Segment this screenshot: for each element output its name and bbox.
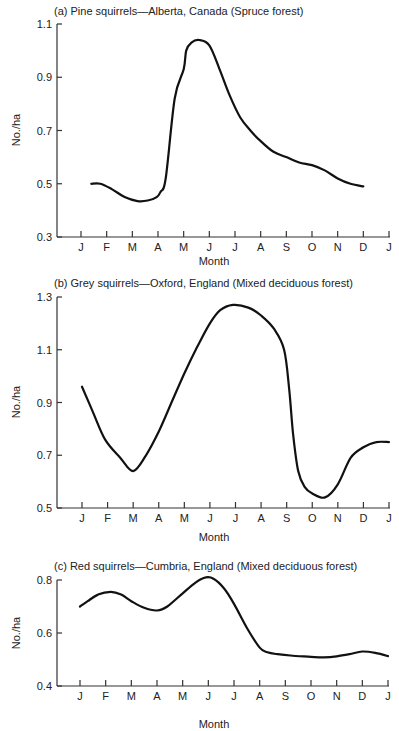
x-tick-label: J	[386, 512, 392, 524]
x-tick-label: A	[256, 690, 264, 702]
y-tick-label: 1.1	[37, 344, 52, 356]
x-tick-label: S	[282, 690, 289, 702]
x-tick-label: N	[334, 512, 342, 524]
x-tick-label: J	[207, 512, 213, 524]
x-tick-label: N	[334, 241, 342, 253]
y-tick-label: 0.5	[37, 502, 52, 514]
chart-a-ylabel: No./ha	[10, 113, 22, 146]
chart-b-title: (b) Grey squirrels—Oxford, England (Mixe…	[54, 277, 353, 289]
x-tick-label: D	[359, 241, 367, 253]
chart-b-xlabel: Month	[199, 531, 230, 543]
x-tick-label: M	[127, 690, 136, 702]
x-tick-label: D	[359, 512, 367, 524]
chart-c-ylabel: No./ha	[10, 616, 22, 649]
x-tick-label: D	[358, 690, 366, 702]
chart-b-line	[82, 305, 389, 498]
y-tick-label: 0.5	[37, 178, 52, 190]
chart-a: (a) Pine squirrels—Alberta, Canada (Spru…	[10, 5, 392, 267]
y-tick-label: 0.9	[37, 397, 52, 409]
chart-c-xlabel: Month	[199, 718, 230, 730]
x-tick-label: O	[308, 241, 317, 253]
x-tick-label: M	[179, 241, 188, 253]
x-tick-label: S	[283, 241, 290, 253]
chart-c-line	[80, 577, 388, 657]
x-tick-label: S	[283, 512, 290, 524]
figure: (a) Pine squirrels—Alberta, Canada (Spru…	[0, 0, 399, 731]
x-tick-label: M	[178, 690, 187, 702]
x-tick-label: M	[180, 512, 189, 524]
x-tick-label: F	[102, 690, 109, 702]
chart-b-axes	[57, 297, 390, 508]
y-tick-label: 0.7	[37, 125, 52, 137]
x-tick-label: M	[129, 512, 138, 524]
x-tick-label: J	[232, 241, 238, 253]
x-tick-label: N	[333, 690, 341, 702]
chart-c-ticks: 0.40.60.8JFMAMJJASONDJ	[37, 574, 391, 702]
x-tick-label: A	[154, 241, 162, 253]
x-tick-label: O	[308, 512, 317, 524]
x-tick-label: F	[104, 512, 111, 524]
chart-a-xlabel: Month	[199, 255, 230, 267]
y-tick-label: 0.8	[37, 574, 52, 586]
chart-c: (c) Red squirrels—Cumbria, England (Mixe…	[10, 560, 391, 730]
y-tick-label: 0.7	[37, 449, 52, 461]
chart-b: (b) Grey squirrels—Oxford, England (Mixe…	[10, 277, 392, 543]
chart-a-axes	[57, 24, 390, 237]
chart-c-axes	[57, 580, 389, 686]
y-tick-label: 0.6	[37, 627, 52, 639]
y-tick-label: 0.4	[37, 680, 52, 692]
x-tick-label: A	[153, 690, 161, 702]
chart-a-title: (a) Pine squirrels—Alberta, Canada (Spru…	[54, 5, 303, 17]
y-tick-label: 0.9	[37, 71, 52, 83]
x-tick-label: J	[206, 690, 212, 702]
x-tick-label: F	[103, 241, 110, 253]
chart-b-ylabel: No./ha	[10, 385, 22, 418]
x-tick-label: A	[257, 512, 265, 524]
x-tick-label: A	[155, 512, 163, 524]
x-tick-label: J	[385, 690, 391, 702]
x-tick-label: J	[77, 690, 83, 702]
x-tick-label: J	[78, 241, 84, 253]
x-tick-label: J	[233, 512, 239, 524]
y-tick-label: 0.3	[37, 231, 52, 243]
x-tick-label: J	[207, 241, 213, 253]
x-tick-label: O	[307, 690, 316, 702]
x-tick-label: J	[79, 512, 85, 524]
x-tick-label: J	[386, 241, 392, 253]
x-tick-label: J	[231, 690, 237, 702]
x-tick-label: M	[128, 241, 137, 253]
x-tick-label: A	[257, 241, 265, 253]
chart-c-title: (c) Red squirrels—Cumbria, England (Mixe…	[54, 560, 357, 572]
y-tick-label: 1.1	[37, 18, 52, 30]
chart-a-line	[91, 40, 363, 201]
y-tick-label: 1.3	[37, 291, 52, 303]
